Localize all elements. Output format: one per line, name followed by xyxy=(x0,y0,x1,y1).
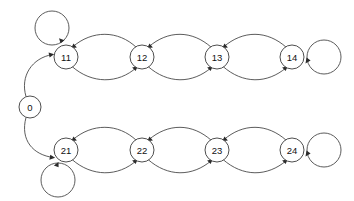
edge-22-to-23-lower xyxy=(148,160,212,173)
node-21-circle[interactable] xyxy=(54,138,78,162)
node-11[interactable]: 11 xyxy=(54,45,78,69)
node-0[interactable]: 0 xyxy=(19,96,41,118)
node-14-circle[interactable] xyxy=(280,45,304,69)
node-0-circle[interactable] xyxy=(19,96,41,118)
edge-12-to-13-lower xyxy=(148,67,212,80)
node-23[interactable]: 23 xyxy=(205,138,229,162)
node-21[interactable]: 21 xyxy=(54,138,78,162)
self-loop-21 xyxy=(41,163,75,197)
node-14[interactable]: 14 xyxy=(280,45,304,69)
edge-23-to-24-lower xyxy=(223,160,287,173)
node-12-circle[interactable] xyxy=(130,45,154,69)
edge-13-to-14-lower xyxy=(223,67,287,80)
self-loop-24 xyxy=(307,133,341,167)
edge-22-to-21-upper xyxy=(73,127,137,140)
node-22[interactable]: 22 xyxy=(130,138,154,162)
node-24[interactable]: 24 xyxy=(280,138,304,162)
edge-12-to-11-upper xyxy=(73,34,137,47)
state-diagram: 0 11 12 13 14 21 xyxy=(0,0,354,201)
edge-13-to-12-upper xyxy=(149,34,212,47)
node-13-circle[interactable] xyxy=(205,45,229,69)
self-loops-layer xyxy=(35,11,341,197)
arrowhead-self-loop-11 xyxy=(59,38,65,43)
edge-0-to-11 xyxy=(24,55,52,97)
node-11-circle[interactable] xyxy=(54,45,78,69)
node-23-circle[interactable] xyxy=(205,138,229,162)
arrowhead-0-to-21 xyxy=(49,155,55,160)
arrowhead-0-to-11 xyxy=(49,53,55,58)
self-loop-11 xyxy=(35,11,69,45)
edge-23-to-22-upper xyxy=(149,127,212,140)
node-13[interactable]: 13 xyxy=(205,45,229,69)
edge-0-to-21 xyxy=(25,118,54,158)
nodes-layer: 0 11 12 13 14 21 xyxy=(19,45,304,162)
edge-24-to-23-upper xyxy=(224,127,287,140)
node-24-circle[interactable] xyxy=(280,138,304,162)
edge-21-to-22-lower xyxy=(72,160,137,173)
self-loop-14 xyxy=(307,40,341,74)
state-diagram-canvas: 0 11 12 13 14 21 xyxy=(0,0,354,201)
node-22-circle[interactable] xyxy=(130,138,154,162)
node-12[interactable]: 12 xyxy=(130,45,154,69)
edge-14-to-13-upper xyxy=(224,34,287,47)
edge-11-to-12-lower xyxy=(72,67,137,80)
